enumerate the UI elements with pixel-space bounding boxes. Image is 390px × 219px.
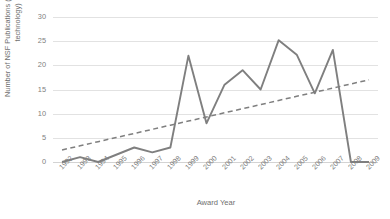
data-series-line bbox=[62, 40, 369, 162]
y-tick-label: 5 bbox=[42, 133, 46, 142]
y-tick-label: 20 bbox=[38, 60, 46, 69]
y-tick-label: 25 bbox=[38, 36, 46, 45]
y-axis-tick-labels: 051015202530 bbox=[24, 17, 50, 162]
x-axis-title: Award Year bbox=[53, 198, 379, 207]
y-tick-label: 15 bbox=[38, 85, 46, 94]
trendline bbox=[62, 80, 369, 150]
plot-area bbox=[53, 17, 378, 162]
x-axis-tick-labels: 1992199319941995199619971998199920002001… bbox=[53, 163, 378, 197]
series-lines bbox=[53, 17, 378, 162]
y-axis-title-text: Number of NSF Publications (commercializ… bbox=[3, 0, 23, 110]
y-tick-label: 0 bbox=[42, 157, 46, 166]
y-tick-label: 30 bbox=[38, 12, 46, 21]
y-axis-title: Number of NSF Publications (commercializ… bbox=[2, 0, 24, 110]
y-tick-label: 10 bbox=[38, 109, 46, 118]
line-chart: Number of NSF Publications (commercializ… bbox=[0, 0, 390, 219]
